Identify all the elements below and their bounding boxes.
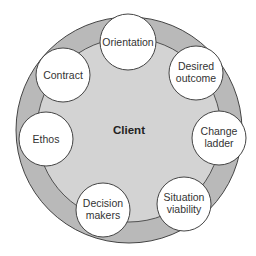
node-label: viability xyxy=(167,203,202,215)
node-label: outcome xyxy=(176,72,216,84)
node-label: Orientation xyxy=(102,36,154,48)
node-orientation: Orientation xyxy=(100,14,156,70)
node-ethos: Ethos xyxy=(19,112,73,166)
node-desired-outcome: Desired outcome xyxy=(169,46,223,100)
node-label: Contract xyxy=(43,69,83,81)
node-decision-makers: Decision makers xyxy=(76,183,130,237)
node-label: ladder xyxy=(204,137,234,149)
center-label: Client xyxy=(113,124,145,136)
client-diagram: Client Orientation Desired outcome Chang… xyxy=(0,0,256,256)
node-label: Situation xyxy=(164,191,205,203)
node-label: Change xyxy=(201,125,238,137)
node-situation-viability: Situation viability xyxy=(157,177,211,231)
node-change-ladder: Change ladder xyxy=(192,111,246,165)
node-label: Ethos xyxy=(33,133,60,145)
node-label: makers xyxy=(86,209,120,221)
node-contract: Contract xyxy=(36,48,90,102)
node-label: Decision xyxy=(83,197,123,209)
node-label: Desired xyxy=(178,60,214,72)
